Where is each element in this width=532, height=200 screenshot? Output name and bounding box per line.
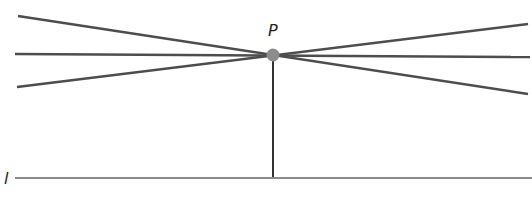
point-p (267, 49, 280, 62)
point-p-label: P (268, 21, 278, 40)
line-l-label: l (4, 169, 9, 188)
diagram-canvas: P l (0, 0, 532, 200)
